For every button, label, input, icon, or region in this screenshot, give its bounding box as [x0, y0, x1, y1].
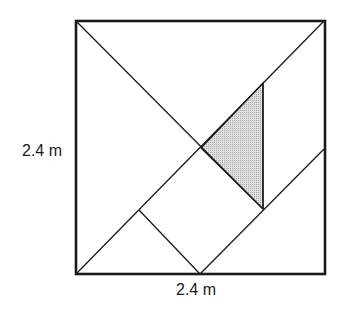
left-side-label: 2.4 m — [22, 142, 62, 159]
bottom-side-label: 2.4 m — [176, 281, 216, 298]
shaded-triangle — [201, 83, 263, 209]
tangram-diagram: 2.4 m 2.4 m — [0, 0, 341, 310]
square-piece-edge — [139, 210, 200, 274]
